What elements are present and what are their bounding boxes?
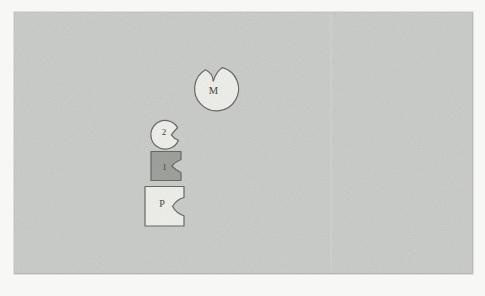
scan-noise-overlay	[14, 12, 473, 274]
diagram-figure: M 2 1 P	[0, 0, 485, 296]
scanned-page: M 2 1 P	[0, 0, 485, 296]
